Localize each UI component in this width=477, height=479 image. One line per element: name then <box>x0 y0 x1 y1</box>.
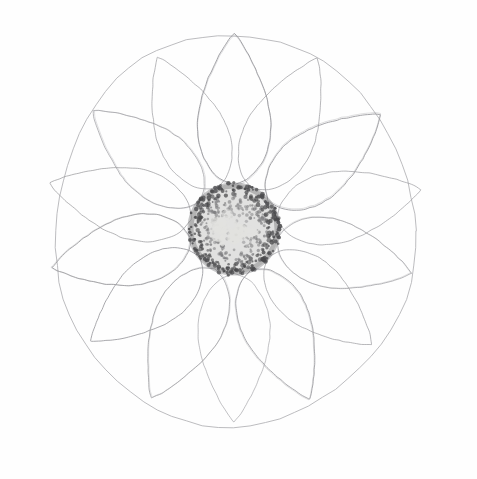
disc-stipple-dot <box>228 266 230 268</box>
disc-stipple-dot <box>239 253 243 257</box>
disc-stipple-dot <box>246 205 249 208</box>
disc-stipple-dot <box>258 242 261 245</box>
disc-stipple-dot <box>258 214 260 216</box>
disc-stipple-dot <box>205 222 207 224</box>
disc-stipple-dot <box>233 248 236 251</box>
disc-stipple-dot <box>256 241 259 244</box>
disc-stipple-dot <box>254 259 257 262</box>
disc-stipple-dot <box>211 258 214 261</box>
disc-stipple-dot <box>199 240 202 243</box>
disc-stipple-dot <box>215 261 218 264</box>
disc-stipple-dot <box>233 193 237 197</box>
disc-highlight-patch <box>228 228 241 245</box>
disc-stipple-dot <box>224 260 226 262</box>
disc-stipple-dot <box>229 204 232 207</box>
disc-stipple-dot <box>210 249 212 251</box>
disc-stipple-dot <box>237 258 240 261</box>
disc-stipple-dot <box>248 211 250 213</box>
disc-stipple-dot <box>207 231 210 234</box>
disc-stipple-dot <box>242 209 244 211</box>
disc-stipple-dot <box>243 263 247 267</box>
disc-stipple-dot <box>199 208 204 213</box>
disc-stipple-dot <box>206 249 209 252</box>
disc-stipple-dot <box>259 239 261 241</box>
disc-stipple-dot <box>259 254 261 256</box>
disc-stipple-dot <box>200 215 204 219</box>
disc-stipple-dot <box>199 234 202 237</box>
disc-stipple-dot <box>263 234 266 237</box>
disc-stipple-dot <box>216 193 220 197</box>
sketch-canvas: Pencil sketch of a daisy flower A light … <box>0 0 477 479</box>
disc-stipple-dot <box>263 217 266 220</box>
disc-stipple-dot <box>243 256 245 258</box>
disc-stipple-dot <box>260 208 264 212</box>
disc-stipple-dot <box>203 226 206 229</box>
disc-stipple-dot <box>209 240 212 243</box>
disc-stipple-dot <box>248 255 251 258</box>
disc-stipple-dot <box>253 199 257 203</box>
disc-stipple-dot <box>228 200 232 204</box>
disc-stipple-dot <box>215 204 219 208</box>
disc-stipple-dot <box>262 249 265 252</box>
disc-stipple-dot <box>232 188 235 191</box>
disc-stipple-dot <box>203 240 205 242</box>
disc-stipple-dot <box>253 217 255 219</box>
disc-stipple-dot <box>218 207 220 209</box>
disc-stipple-dot <box>208 208 211 211</box>
disc-stipple-dot <box>200 243 203 246</box>
disc-stipple-dot <box>224 204 227 207</box>
disc-stipple-dot <box>267 231 271 235</box>
disc-stipple-dot <box>245 193 248 196</box>
disc-stipple-dot <box>250 248 252 250</box>
disc-stipple-dot <box>227 263 230 266</box>
disc-stipple-dot <box>197 222 199 224</box>
disc-stipple-dot <box>237 214 241 218</box>
disc-stipple-dot <box>205 253 207 255</box>
disc-stipple-dot <box>218 263 220 265</box>
disc-stipple-dot <box>258 220 261 223</box>
disc-stipple-dot <box>194 233 196 235</box>
disc-highlight-patch <box>219 234 225 246</box>
disc-highlight-patch <box>208 217 227 228</box>
disc-stipple-dot <box>200 223 203 226</box>
disc-stipple-dot <box>224 257 226 259</box>
disc-stipple-dot <box>210 206 212 208</box>
disc-stipple-dot <box>207 213 209 215</box>
disc-stipple-dot <box>257 210 261 214</box>
disc-stipple-dot <box>262 213 264 215</box>
disc-stipple-dot <box>224 194 228 198</box>
disc-stipple-dot <box>213 198 216 201</box>
disc-stipple-dot <box>268 245 270 247</box>
disc-stipple-dot <box>241 260 243 262</box>
disc-stipple-dot <box>245 261 248 264</box>
disc-stipple-dot <box>233 263 236 266</box>
disc-stipple-dot <box>203 219 205 221</box>
disc-stipple-dot <box>264 212 269 217</box>
disc-stipple-dot <box>242 212 245 215</box>
disc-stipple-dot <box>204 203 208 207</box>
disc-stipple-dot <box>239 200 243 204</box>
disc-stipple-dot <box>224 252 227 255</box>
disc-stipple-dot <box>225 190 227 192</box>
disc-stipple-dot <box>194 223 197 226</box>
disc-stipple-dot <box>217 209 219 211</box>
disc-stipple-dot <box>238 208 240 210</box>
disc-stipple-dot <box>251 207 254 210</box>
disc-stipple-dot <box>255 213 258 216</box>
disc-stipple-dot <box>251 204 253 206</box>
disc-stipple-dot <box>206 235 210 239</box>
disc-stipple-dot <box>260 222 263 225</box>
disc-stipple-dot <box>249 216 253 220</box>
disc-stipple-dot <box>233 196 236 199</box>
disc-stipple-dot <box>258 205 260 207</box>
disc-stipple-dot <box>253 253 255 255</box>
disc-stipple-dot <box>235 258 238 261</box>
disc-stipple-dot <box>255 207 257 209</box>
disc-stipple-dot <box>250 213 253 216</box>
disc-stipple-dot <box>210 243 212 245</box>
disc-stipple-dot <box>266 226 269 229</box>
disc-stipple-dot <box>249 194 253 198</box>
disc-stipple-dot <box>237 261 240 264</box>
disc-stipple-dot <box>257 253 259 255</box>
disc-stipple-dot <box>245 244 248 247</box>
